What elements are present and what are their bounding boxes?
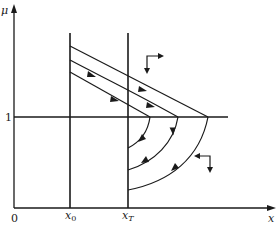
axes [11, 4, 276, 211]
x-axis-arrowhead-icon [267, 205, 276, 211]
upper-trajectory-arrows [87, 71, 155, 108]
arrow-down-icon [144, 68, 150, 74]
upper-trajectory-1 [70, 46, 208, 117]
lower-trajectories [128, 117, 208, 190]
upper-direction-indicator [144, 53, 164, 74]
upper-trajectory-2 [70, 60, 178, 117]
arrow-left-icon [194, 153, 200, 159]
y-tick-one-label: 1 [5, 111, 12, 124]
y-axis-arrowhead-icon [11, 4, 17, 13]
svg-text:x0: x0 [65, 209, 76, 223]
arrowhead-icon [87, 71, 96, 77]
lower-trajectory-1 [128, 117, 150, 148]
upper-trajectory-3 [70, 72, 150, 117]
x-axis-label: x [268, 212, 275, 225]
arrow-down-icon [207, 167, 213, 173]
lower-trajectory-3 [128, 117, 208, 190]
origin-label: 0 [11, 212, 18, 225]
arrowhead-icon [138, 134, 146, 142]
arrow-right-icon [158, 53, 164, 59]
lower-direction-indicator [194, 153, 213, 173]
phase-diagram: μ x 0 1 x0 xT [0, 0, 278, 227]
arrowhead-icon [146, 102, 155, 108]
arrowhead-icon [141, 156, 149, 163]
upper-trajectories [70, 46, 208, 117]
arrowhead-icon [138, 86, 147, 92]
xT-label: xT [122, 209, 134, 223]
svg-text:xT: xT [122, 209, 134, 223]
y-axis-label: μ [1, 4, 8, 17]
x0-label: x0 [65, 209, 76, 223]
